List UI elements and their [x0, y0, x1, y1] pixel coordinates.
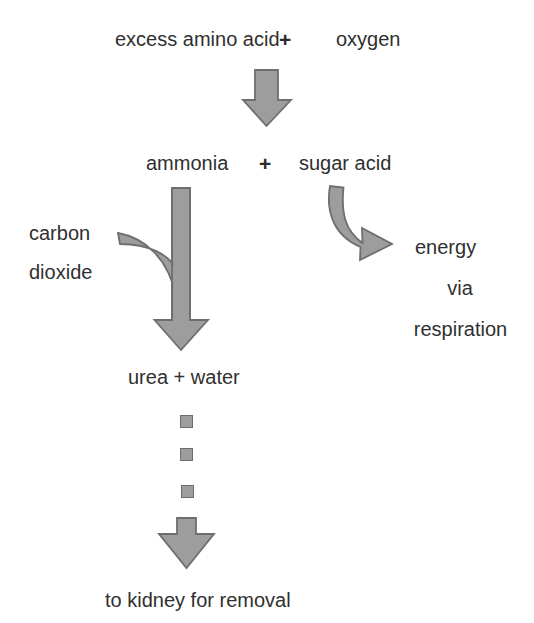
curved-down-right-arrow-icon	[329, 186, 392, 260]
product-ammonia: ammonia	[146, 152, 228, 174]
dash-square-1	[180, 415, 193, 428]
plus-sign-2: +	[259, 152, 271, 176]
reactant-excess-amino-acid: excess amino acid	[115, 28, 280, 50]
merging-down-arrow-branch	[118, 233, 176, 296]
merging-down-arrow-seam	[173, 250, 189, 318]
plus-sign-1: +	[279, 28, 291, 52]
product-sugar-acid: sugar acid	[299, 152, 391, 174]
label-carbon: carbon	[29, 222, 90, 244]
arrow-layer	[0, 0, 534, 623]
label-urea-water: urea + water	[128, 366, 240, 388]
merging-down-arrow-shaft	[155, 188, 209, 350]
label-via: via	[415, 277, 505, 299]
dash-square-3	[181, 485, 194, 498]
label-dioxide: dioxide	[29, 261, 92, 283]
label-respiration: respiration	[403, 318, 518, 340]
dash-square-2	[180, 448, 193, 461]
urea-cycle-diagram: excess amino acid + oxygen ammonia + sug…	[0, 0, 534, 623]
down-block-arrow-icon-top	[243, 70, 291, 126]
down-block-arrow-icon-bottom	[159, 518, 214, 568]
label-to-kidney-for-removal: to kidney for removal	[105, 589, 291, 611]
reactant-oxygen: oxygen	[336, 28, 401, 50]
label-energy: energy	[415, 236, 520, 258]
